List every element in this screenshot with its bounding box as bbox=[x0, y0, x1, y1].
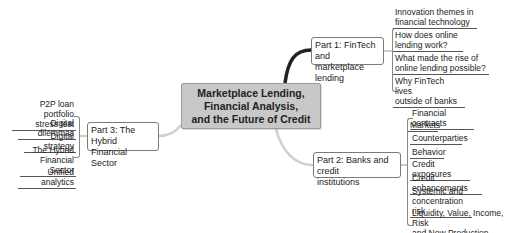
topic-part-1[interactable]: Part 1: FinTech and marketplace lending bbox=[311, 37, 384, 65]
subtopic-rise-of-online-lending[interactable]: What made the rise of online lending pos… bbox=[393, 52, 489, 75]
subtopic-counterparties[interactable]: Counterparties bbox=[410, 132, 462, 145]
subtopic-innovation-themes[interactable]: Innovation themes in financial technolog… bbox=[393, 6, 477, 29]
mind-map-canvas: Marketplace Lending, Financial Analysis,… bbox=[0, 0, 519, 233]
subtopic-markets[interactable]: Markets bbox=[408, 119, 438, 132]
central-topic[interactable]: Marketplace Lending, Financial Analysis,… bbox=[181, 83, 321, 129]
subtopic-unified-analytics[interactable]: Unified analytics bbox=[18, 166, 76, 189]
subtopic-how-online-lending-works[interactable]: How does online lending work? bbox=[393, 29, 463, 52]
topic-part-2[interactable]: Part 2: Banks and credit institutions bbox=[313, 152, 401, 178]
subtopic-why-fintech-outside-banks[interactable]: Why FinTech lives outside of banks bbox=[393, 75, 465, 108]
subtopic-liquidity-value-income[interactable]: Liquidity, Value, Income, Risk and New P… bbox=[410, 207, 516, 233]
topic-part-3[interactable]: Part 3: The Hybrid Financial Sector bbox=[87, 122, 159, 151]
